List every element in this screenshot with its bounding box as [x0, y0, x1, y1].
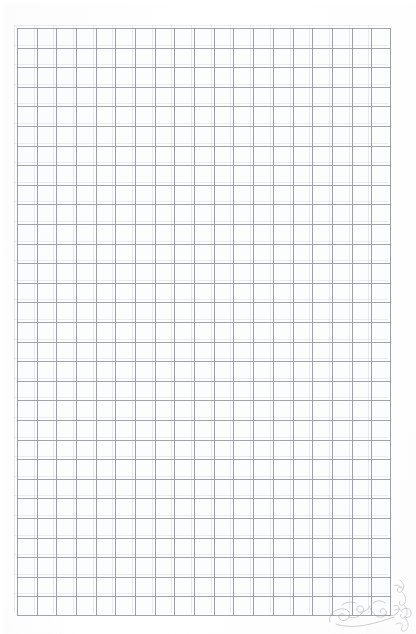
- scan-edge-top: [0, 0, 416, 8]
- scan-edge-left: [0, 0, 8, 634]
- scanned-page: [0, 0, 416, 634]
- grid-paper-wash: [17, 28, 391, 616]
- grid-bottom-border: [17, 615, 391, 616]
- grid-right-border: [390, 28, 391, 616]
- graph-paper-grid: [17, 28, 391, 616]
- grid-ghost-lines: [14, 25, 388, 613]
- grid-ruled-lines: [17, 28, 391, 616]
